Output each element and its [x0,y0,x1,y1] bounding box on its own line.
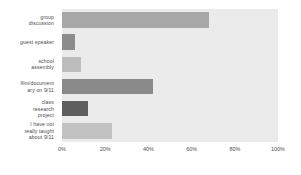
bar [62,12,209,28]
x-axis-tick: 60% [186,146,197,152]
y-axis-label-line: ary on 9/11 [20,87,54,93]
y-axis-label-line: project [33,112,54,118]
y-axis-label: guest speaker [0,31,58,53]
x-axis-tick: 100% [271,146,285,152]
x-axis-tick-labels: 0%20%40%60%80%100% [62,146,278,158]
bar [62,57,81,73]
y-axis-label: I have notreally taughtabout 9/11 [0,120,58,142]
x-axis-tick: 20% [100,146,111,152]
bar [62,101,88,117]
y-axis-label: groupdiscussion [0,9,58,31]
y-axis-label: schoolassembly [0,53,58,75]
x-axis-tick: 40% [143,146,154,152]
y-axis-label-line: assembly [31,64,54,70]
bar-row [62,98,278,120]
bar-row [62,53,278,75]
bars-layer [62,9,278,142]
y-axis-label: classresearchproject [0,98,58,120]
y-axis-label-line: research [33,106,54,112]
x-axis-tick: 0% [58,146,66,152]
bar-row [62,120,278,142]
y-axis-label-line: film/document [20,80,54,86]
y-axis-label-line: guest speaker [20,39,54,45]
y-axis-label-line: about 9/11 [24,134,54,140]
bar-row [62,75,278,97]
bar-chart: groupdiscussionguest speakerschoolassemb… [0,0,301,175]
bar-row [62,31,278,53]
y-axis-label-line: discussion [29,20,54,26]
bar [62,123,112,139]
x-axis-tick: 80% [229,146,240,152]
bar-row [62,9,278,31]
bar [62,34,75,50]
bar [62,79,153,95]
y-axis-category-labels: groupdiscussionguest speakerschoolassemb… [0,9,58,142]
y-axis-label: film/documentary on 9/11 [0,75,58,97]
